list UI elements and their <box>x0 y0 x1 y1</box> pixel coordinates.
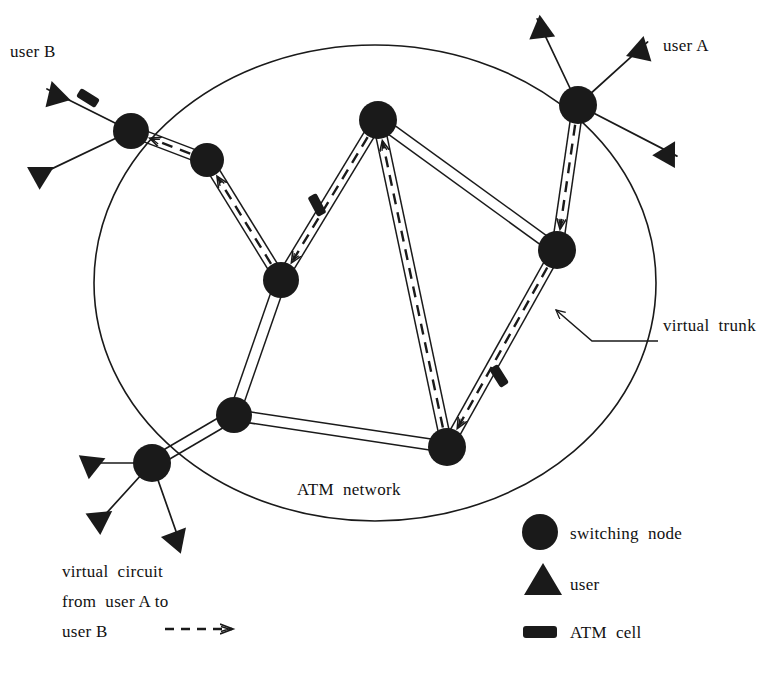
label-user-a: user A <box>663 36 709 56</box>
legend-switching-node-icon <box>522 514 558 550</box>
label-virtual-circuit-line2: from user A to <box>62 592 169 612</box>
figure-canvas: user B user A virtual trunk ATM network … <box>0 0 780 673</box>
node-northwest <box>190 143 224 177</box>
node-bottom-left-edge <box>133 444 171 482</box>
user-triangle-bl-right <box>161 519 196 554</box>
trunk-rail-n_c-n_t <box>276 117 373 277</box>
virtual-circuit-hop-n_t-n_c <box>292 137 368 262</box>
trunk-rail-n_nw-n_c <box>202 163 276 283</box>
label-virtual-circuit-line1: virtual circuit <box>62 562 163 582</box>
node-user-b-edge <box>113 113 149 149</box>
node-top-center <box>359 101 397 139</box>
trunk-rail-n_a-n_e <box>552 104 573 249</box>
trunk-rail-n_t-n_e <box>381 116 560 246</box>
virtual-trunk-leader <box>556 310 658 341</box>
user-triangle-b-bottom <box>27 156 60 190</box>
user-triangle-a-low <box>652 135 686 168</box>
virtual-circuit-hop-n_e-n_se <box>458 267 548 427</box>
label-user-b: user B <box>10 42 56 62</box>
label-virtual-trunk: virtual trunk <box>663 316 756 336</box>
atm-cell-on-trunk-e-se <box>489 364 509 388</box>
legend-label-atm-cell: ATM cell <box>570 623 642 643</box>
node-east <box>538 231 576 269</box>
label-virtual-circuit-line3: user B <box>62 622 108 642</box>
virtual-circuit-hop-n_c-n_nw <box>217 177 271 264</box>
label-atm-network: ATM network <box>297 480 401 500</box>
legend-glyphs <box>165 514 562 638</box>
node-southwest <box>216 397 252 433</box>
virtual-trunk-callout <box>556 310 658 341</box>
trunk-rail-n_nw-n_c <box>212 157 286 277</box>
trunk-rail-n_t-n_se <box>373 121 442 448</box>
trunk-rail-n_c-n_sw <box>239 282 286 417</box>
node-center-left <box>263 262 299 298</box>
legend-user-icon <box>524 563 562 595</box>
user-triangle-b-top <box>39 78 70 108</box>
trunk-rail-n_e-n_se <box>442 247 552 444</box>
node-southeast <box>428 428 466 466</box>
node-user-a-edge <box>559 86 597 124</box>
virtual-circuit-hop-n_se-n_t <box>383 142 443 428</box>
legend-atm-cell-icon <box>523 626 557 638</box>
legend-label-switching-node: switching node <box>570 524 682 544</box>
trunk-rail-n_c-n_t <box>286 123 383 283</box>
user-triangle-a-left <box>527 13 555 39</box>
legend-label-user: user <box>570 575 600 595</box>
trunk-rail-n_t-n_se <box>383 119 452 446</box>
trunk-rail-n_c-n_sw <box>229 278 276 413</box>
trunk-rail-n_e-n_se <box>452 253 562 450</box>
trunk-rail-n_a-n_e <box>562 106 583 251</box>
atm-cell-on-trunk-c-t <box>307 193 326 217</box>
